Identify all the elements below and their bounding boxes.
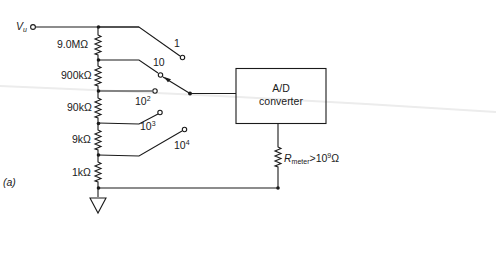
resistor-label-90k: 90kΩ xyxy=(67,102,92,113)
range-label-100: 102 xyxy=(135,95,151,107)
contact-100-icon xyxy=(153,89,157,93)
resistor-icon xyxy=(95,155,101,188)
tap-wire-10 xyxy=(98,60,158,73)
contact-1000-icon xyxy=(158,110,162,114)
junction-dot xyxy=(97,25,101,29)
resistor-icon xyxy=(95,123,101,155)
resistor-icon xyxy=(95,27,101,60)
range-label-1: 1 xyxy=(174,38,180,49)
resistor-icon xyxy=(95,91,101,123)
junction-dot xyxy=(97,122,101,126)
junction-dot xyxy=(97,153,101,157)
resistor-label-900k: 900kΩ xyxy=(61,70,92,81)
resistor-label-9k: 9kΩ xyxy=(72,134,91,145)
range-label-10: 10 xyxy=(153,57,165,68)
resistor-label-9M: 9.0MΩ xyxy=(57,39,88,50)
tap-wire-10000 xyxy=(98,131,182,156)
range-label-1000: 103 xyxy=(140,120,156,132)
wiper-pivot-dot xyxy=(188,92,192,96)
contact-10000-icon xyxy=(182,127,186,131)
resistor-label-1k: 1kΩ xyxy=(72,167,91,178)
adc-label: A/D converter xyxy=(236,82,326,108)
input-terminal-icon xyxy=(31,25,36,30)
tap-wire-1 xyxy=(98,27,180,56)
contact-1-icon xyxy=(180,55,184,59)
input-label: Vu xyxy=(16,21,27,33)
meter-resistor-icon xyxy=(275,124,281,189)
junction-dot xyxy=(97,89,101,93)
panel-label: (a) xyxy=(3,177,16,188)
contact-10-icon xyxy=(158,73,162,77)
junction-dot xyxy=(97,186,101,190)
ground-icon xyxy=(90,198,106,213)
junction-dot xyxy=(276,186,280,190)
divider-chain xyxy=(95,27,101,197)
junction-dot xyxy=(97,58,101,62)
range-label-10000: 104 xyxy=(174,139,190,151)
meter-resistance-label: Rmeter>109Ω xyxy=(284,152,339,165)
resistor-icon xyxy=(95,60,101,91)
